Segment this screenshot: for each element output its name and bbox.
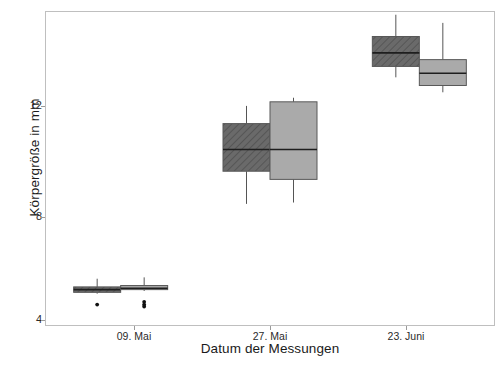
outlier-point xyxy=(95,303,99,307)
y-tick-label-8: 8 xyxy=(12,210,42,222)
boxplot-chart: Körpergröße in mm 4 8 12 09. Mai 27. Mai… xyxy=(0,0,504,366)
box-Gruppe A-23. Juni xyxy=(372,36,419,66)
outlier-point xyxy=(142,305,146,309)
y-axis-title: Körpergröße in mm xyxy=(27,38,42,278)
y-tick-label-12: 12 xyxy=(12,99,42,111)
box-Gruppe B-27. Mai xyxy=(270,102,317,180)
boxplot-svg xyxy=(46,12,494,325)
x-axis-title: Datum der Messungen xyxy=(45,341,495,356)
plot-area xyxy=(45,11,495,326)
y-tick-label-4: 4 xyxy=(12,313,42,325)
box-Gruppe A-27. Mai xyxy=(223,124,270,172)
